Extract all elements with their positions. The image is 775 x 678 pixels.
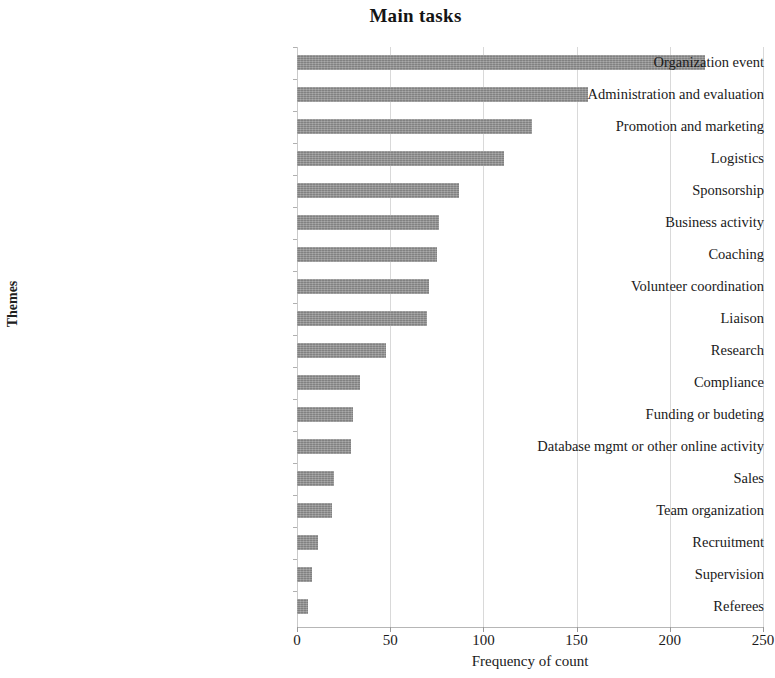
bar [297, 311, 427, 326]
y-tick-mark [293, 271, 297, 272]
bar [297, 535, 318, 550]
y-tick-mark [293, 399, 297, 400]
bar [297, 471, 334, 486]
bar [297, 407, 353, 422]
y-tick-label: Liaison [480, 310, 775, 327]
chart-title: Main tasks [0, 5, 775, 27]
x-tick-label-50: 50 [360, 632, 420, 649]
y-tick-mark [293, 143, 297, 144]
y-tick-mark [293, 591, 297, 592]
y-tick-label: Research [480, 342, 775, 359]
y-tick-label: Recruitment [480, 534, 775, 551]
bar [297, 375, 360, 390]
y-tick-mark [293, 79, 297, 80]
y-tick-mark [293, 207, 297, 208]
y-tick-mark [293, 111, 297, 112]
y-tick-mark [293, 303, 297, 304]
y-tick-mark [293, 431, 297, 432]
y-tick-label: Compliance [480, 374, 775, 391]
y-tick-label: Team organization [480, 502, 775, 519]
y-tick-label: Database mgmt or other online activity [480, 438, 775, 455]
bar [297, 183, 459, 198]
y-tick-mark [293, 559, 297, 560]
y-tick-label: Sales [480, 470, 775, 487]
y-tick-label: Volunteer coordination [480, 278, 775, 295]
bar [297, 247, 437, 262]
bar [297, 279, 429, 294]
y-tick-mark [293, 335, 297, 336]
y-tick-label: Administration and evaluation [480, 86, 775, 103]
y-tick-label: Referees [480, 598, 775, 615]
y-tick-label: Coaching [480, 246, 775, 263]
bar [297, 343, 386, 358]
y-tick-label: Sponsorship [480, 182, 775, 199]
x-axis-line [297, 627, 764, 628]
y-tick-mark [293, 239, 297, 240]
y-tick-mark [293, 47, 297, 48]
x-tick-label-100: 100 [453, 632, 513, 649]
chart-title-text: Main tasks [369, 5, 461, 27]
bar [297, 567, 312, 582]
y-tick-mark [293, 495, 297, 496]
y-tick-mark [293, 463, 297, 464]
bar-chart-figure: Main tasks Themes Organization eventAdmi… [0, 0, 775, 678]
x-axis-title: Frequency of count [297, 653, 763, 670]
y-tick-mark [293, 367, 297, 368]
y-tick-mark [293, 175, 297, 176]
y-tick-mark [293, 527, 297, 528]
y-tick-label: Business activity [480, 214, 775, 231]
bar [297, 215, 439, 230]
x-tick-label-150: 150 [547, 632, 607, 649]
y-tick-label: Logistics [480, 150, 775, 167]
x-tick-label-250: 250 [733, 632, 775, 649]
y-tick-label: Organization event [480, 54, 775, 71]
bar [297, 599, 308, 614]
gridline-50 [390, 47, 391, 627]
y-tick-label: Promotion and marketing [480, 118, 775, 135]
x-tick-label-200: 200 [640, 632, 700, 649]
x-tick-label-0: 0 [267, 632, 327, 649]
bar [297, 503, 332, 518]
y-tick-label: Supervision [480, 566, 775, 583]
bar [297, 151, 504, 166]
y-axis-title: Themes [5, 269, 21, 339]
bar [297, 439, 351, 454]
y-tick-label: Funding or budeting [480, 406, 775, 423]
